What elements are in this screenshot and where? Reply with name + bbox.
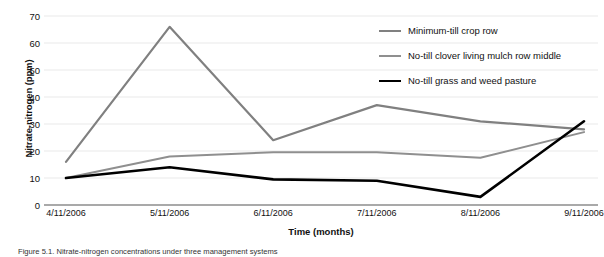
chart-legend: Minimum-till crop rowNo-till clover livi… xyxy=(379,18,604,93)
legend-line-swatch xyxy=(379,55,401,57)
y-tick-label: 60 xyxy=(18,38,40,49)
x-axis-tick-labels: 4/11/20065/11/20066/11/20067/11/20068/11… xyxy=(44,208,598,222)
x-tick-label: 8/11/2006 xyxy=(435,208,525,218)
x-tick-label: 4/11/2006 xyxy=(21,208,111,218)
legend-line-swatch xyxy=(379,80,401,82)
x-tick-label: 9/11/2006 xyxy=(539,208,604,218)
y-tick-label: 50 xyxy=(18,65,40,76)
legend-label: Minimum-till crop row xyxy=(408,26,498,36)
x-axis-title: Time (months) xyxy=(44,226,598,237)
y-tick-label: 40 xyxy=(18,92,40,103)
legend-label: No-till grass and weed pasture xyxy=(408,76,536,86)
legend-item-1: No-till clover living mulch row middle xyxy=(379,43,604,68)
y-tick-label: 10 xyxy=(18,173,40,184)
figure-caption: Figure 5.1. Nitrate-nitrogen concentrati… xyxy=(18,247,604,257)
x-tick-label: 5/11/2006 xyxy=(125,208,215,218)
legend-label: No-till clover living mulch row middle xyxy=(408,51,561,61)
y-tick-label: 30 xyxy=(18,119,40,130)
y-tick-label: 70 xyxy=(18,11,40,22)
x-tick-label: 7/11/2006 xyxy=(332,208,422,218)
legend-line-swatch xyxy=(379,30,401,32)
nitrate-nitrogen-line-chart: Nitrate-nitrogen (ppm) 706050403020100 4… xyxy=(0,0,604,257)
series-line-2 xyxy=(66,121,584,197)
legend-item-0: Minimum-till crop row xyxy=(379,18,604,43)
x-tick-label: 6/11/2006 xyxy=(228,208,318,218)
y-axis-tick-labels: 706050403020100 xyxy=(10,0,40,257)
y-tick-label: 20 xyxy=(18,146,40,157)
legend-item-2: No-till grass and weed pasture xyxy=(379,68,604,93)
